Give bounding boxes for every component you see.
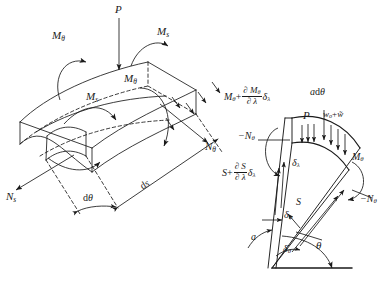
shell-element-diagram: P Mθ Ms Mθ Ms Nθ Ns dθ ds Mθ+∂ Mθ∂ λδλ S… <box>0 0 383 305</box>
shear-left-arrow-2 <box>275 168 279 215</box>
label-moment-theta-mid-right: Mθ <box>124 73 137 85</box>
label-negative-normal-theta-right: −Nθ <box>360 194 377 205</box>
label-moment-s-front: Ms <box>86 91 98 103</box>
label-moment-s-top-right: Ms <box>157 26 169 38</box>
inner-element-left-edge <box>46 136 47 160</box>
projection-line-left <box>46 160 80 214</box>
surface-normal-arrow-4 <box>212 82 220 93</box>
label-negative-normal-theta-left: −Nθ <box>238 131 255 142</box>
label-load-P-right: P <box>303 110 310 121</box>
label-angle-theta: θ <box>316 240 321 251</box>
shear-right-arrow <box>300 190 344 246</box>
section-inner-arc <box>292 142 349 170</box>
inner-element-top-arc <box>47 127 86 136</box>
ds-dimension-arrow <box>118 139 218 207</box>
normal-force-s-arrow <box>16 155 74 190</box>
label-delta-phi: δφ <box>284 210 292 221</box>
surface-generator-curve-lower <box>40 120 170 156</box>
label-normal-force-s: Ns <box>6 191 16 203</box>
shear-left-arrow-1 <box>281 162 284 208</box>
inner-element-bottom-arc <box>46 151 86 160</box>
label-a-d-theta: adθ <box>310 87 325 97</box>
moment-theta-top-left-arrow <box>58 61 86 100</box>
label-moment-theta-incremented: Mθ+∂ Mθ∂ λδλ <box>224 86 270 107</box>
label-displacement-w: wo+w̃ <box>323 110 343 119</box>
diagram-vector-graphics <box>0 0 383 305</box>
label-load-P-left: P <box>115 4 122 15</box>
label-moment-theta-right: Mθ <box>352 152 364 163</box>
top-face-left-edge-curve <box>20 62 148 122</box>
label-d-theta: dθ <box>83 193 93 203</box>
label-normal-force-theta: Nθ <box>205 141 216 153</box>
left-element-body <box>20 62 222 214</box>
bottom-front-curve <box>92 114 196 172</box>
top-face-right-edge <box>148 62 196 90</box>
label-shear-incremented: S+∂ S∂ λδλ <box>222 162 255 182</box>
label-shear-S: S <box>296 197 301 207</box>
surface-normal-arrow-3 <box>198 92 206 103</box>
label-delta-theta: δθ <box>283 244 291 255</box>
right-force-arrows <box>248 110 372 268</box>
moment-theta-left-curved-arrow <box>266 128 281 176</box>
moment-s-front-arrow <box>64 108 116 124</box>
label-radius-a: a <box>251 232 256 242</box>
label-delta-lambda: δλ <box>292 158 300 169</box>
left-moment-arrows <box>16 18 220 190</box>
d-theta-arc-arrow <box>78 206 116 211</box>
label-moment-theta-top-left: Mθ <box>52 30 65 42</box>
